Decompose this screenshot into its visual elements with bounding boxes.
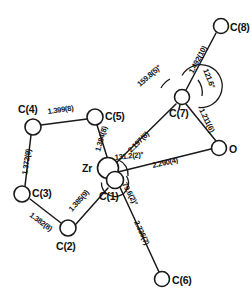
atom-c3 [14, 186, 30, 202]
atom-c2 [60, 220, 76, 236]
arc-c8-c7-o-icon [198, 80, 202, 96]
structure-canvas: Zr C(1) C(2) C(3) C(4) C(5) C(6) C(7) C(… [0, 0, 252, 303]
atom-label-c4: C(4) [18, 103, 38, 115]
bond-length-zr-o: 2.290(4) [151, 155, 179, 170]
atom-o [212, 141, 227, 156]
atom-label-o: O [229, 143, 237, 155]
angle-label-c8-c7-zr: 159.8(5)° [135, 63, 163, 89]
bond-c4-c5 [41, 119, 87, 125]
atom-c4 [25, 119, 41, 135]
atom-c8 [214, 19, 229, 34]
atom-label-c3: C(3) [32, 187, 52, 199]
atom-c7 [175, 90, 190, 105]
atom-label-c8: C(8) [230, 21, 250, 33]
atom-label-c5: C(5) [105, 110, 125, 122]
bond-length-c2-c3: 1.382(8) [28, 210, 55, 233]
bond-length-zr-c5: 1.384(8) [93, 124, 109, 152]
arc-c8-c7-zr-icon [161, 79, 170, 88]
bond-length-c3-c4: 1.372(9) [20, 148, 33, 176]
atom-label-zr: Zr [82, 162, 92, 174]
atom-label-c1: C(1) [99, 190, 119, 202]
angle-label-group: 159.8(5)° 121.6° 131.2(2)° 79.6(2)° [114, 63, 217, 207]
atom-label-c7: C(7) [169, 107, 189, 119]
molecular-structure-figure: Zr C(1) C(2) C(3) C(4) C(5) C(6) C(7) C(… [0, 0, 252, 303]
bond-length-zr-c6: 2.336(7) [132, 219, 151, 247]
atom-label-c6: C(6) [172, 274, 192, 286]
atom-label-c2: C(2) [56, 240, 76, 252]
angle-label-c7-zr-o: 131.2(2)° [114, 150, 144, 162]
atom-c6 [155, 272, 170, 287]
atom-c5 [87, 109, 103, 125]
bond-length-c4-c5: 1.399(8) [47, 103, 75, 116]
angle-label-c8-c7-o: 121.6° [201, 67, 217, 89]
bond-length-label-group: 1.399(8) 1.372(9) 1.382(8) 1.385(9) 1.38… [20, 44, 217, 247]
bond-length-c1-c2: 1.385(9) [67, 188, 92, 214]
